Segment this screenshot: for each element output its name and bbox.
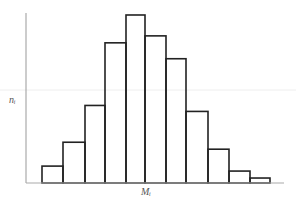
histogram-bar bbox=[250, 178, 270, 183]
histogram-bar bbox=[126, 15, 145, 183]
histogram-bar bbox=[63, 142, 85, 183]
histogram-bar bbox=[145, 36, 166, 183]
x-axis-label: Mᵢ bbox=[140, 186, 151, 197]
histogram-bar bbox=[186, 111, 208, 183]
histogram-bar bbox=[229, 171, 250, 183]
histogram-bar bbox=[105, 43, 126, 183]
histogram-bars bbox=[42, 15, 270, 183]
histogram-bar bbox=[42, 166, 63, 183]
histogram-bar bbox=[166, 59, 186, 183]
histogram-bar bbox=[208, 149, 229, 183]
histogram-chart: nᵢ Mᵢ bbox=[0, 0, 296, 203]
histogram-bar bbox=[85, 105, 105, 183]
y-axis-label: nᵢ bbox=[9, 94, 16, 105]
